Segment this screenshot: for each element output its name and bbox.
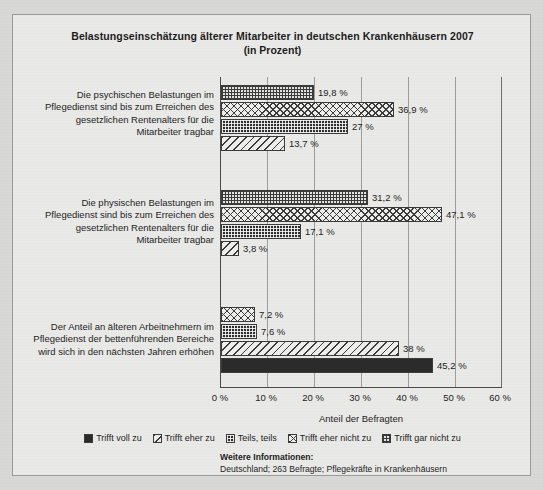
plot-wrapper: Die psychischen Belastungen im Pflegedie… bbox=[13, 67, 532, 397]
value-label-g1-gar-nicht-zu: 31,2 % bbox=[368, 190, 402, 205]
xtick-60: 60 % bbox=[480, 392, 520, 403]
chart-subtitle: (in Prozent) bbox=[13, 43, 532, 57]
legend-item-teils-teils[interactable]: Teils, teils bbox=[226, 433, 277, 443]
value-label-g0-gar-nicht-zu: 19,8 % bbox=[314, 85, 348, 100]
category-label-1-line-0: Die physischen Belastungen im bbox=[19, 197, 214, 209]
plot-area: 19,8 % 36,9 % 27 % 13,7 % 31,2 % 47,1 % … bbox=[220, 77, 502, 388]
value-label-g0-eher-nicht-zu: 36,9 % bbox=[394, 102, 428, 117]
bar-g0-teils-teils[interactable] bbox=[221, 119, 348, 134]
legend-label-3: Trifft eher nicht zu bbox=[300, 433, 372, 443]
bar-g0-eher-nicht-zu[interactable] bbox=[221, 102, 394, 117]
bar-g2-eher-zu[interactable] bbox=[221, 341, 399, 356]
category-label-0-line-1: Pflegedienst sind bis zum Erreichen des bbox=[19, 101, 214, 113]
category-label-0-line-3: Mitarbeiter tragbar bbox=[19, 126, 214, 138]
category-label-1-line-1: Pflegedienst sind bis zum Erreichen des bbox=[19, 209, 214, 221]
value-label-g2-teils-teils: 7,6 % bbox=[257, 324, 285, 339]
gridline-50 bbox=[455, 77, 456, 387]
value-label-g1-teils-teils: 17,1 % bbox=[301, 224, 335, 239]
category-label-2-line-1: Pflegedienst der bettenführenden Bereich… bbox=[19, 333, 214, 345]
value-label-g0-eher-zu: 13,7 % bbox=[285, 136, 319, 151]
legend-label-4: Trifft gar nicht zu bbox=[394, 433, 461, 443]
chart-title-block: Belastungseinschätzung älterer Mitarbeit… bbox=[13, 29, 532, 57]
legend-swatch-diagonal-lines-icon bbox=[153, 434, 162, 443]
bar-g0-gar-nicht-zu[interactable] bbox=[221, 85, 314, 100]
legend-swatch-crosshatch-icon bbox=[288, 434, 297, 443]
chart-title: Belastungseinschätzung älterer Mitarbeit… bbox=[13, 29, 532, 43]
footer-text: Deutschland; 263 Befragte; Pflegekräfte … bbox=[220, 463, 520, 475]
category-label-2: Der Anteil an älteren Arbeitnehmern im P… bbox=[19, 321, 214, 358]
value-label-g2-eher-nicht-zu: 7,2 % bbox=[255, 307, 283, 322]
xtick-20: 20 % bbox=[293, 392, 333, 403]
bar-g1-eher-zu[interactable] bbox=[221, 241, 239, 256]
legend-label-2: Teils, teils bbox=[238, 433, 277, 443]
bar-g1-eher-nicht-zu[interactable] bbox=[221, 207, 442, 222]
xtick-0: 0 % bbox=[200, 392, 240, 403]
scanned-page-background: Belastungseinschätzung älterer Mitarbeit… bbox=[0, 0, 543, 490]
value-label-g2-eher-zu: 38 % bbox=[399, 341, 425, 356]
xtick-30: 30 % bbox=[340, 392, 380, 403]
bar-g2-eher-nicht-zu[interactable] bbox=[221, 307, 255, 322]
value-label-g1-eher-zu: 3,8 % bbox=[239, 241, 267, 256]
gridline-60 bbox=[501, 77, 502, 387]
legend-label-1: Trifft eher zu bbox=[165, 433, 215, 443]
xtick-10: 10 % bbox=[246, 392, 286, 403]
bar-g2-voll-zu[interactable] bbox=[221, 358, 433, 373]
x-axis-title: Anteil der Befragten bbox=[220, 413, 502, 424]
category-label-2-line-0: Der Anteil an älteren Arbeitnehmern im bbox=[19, 321, 214, 333]
category-label-1-line-2: gesetzlichen Rentenalters für die bbox=[19, 222, 214, 234]
xtick-50: 50 % bbox=[434, 392, 474, 403]
bar-g0-eher-zu[interactable] bbox=[221, 136, 285, 151]
legend-item-trifft-eher-nicht-zu[interactable]: Trifft eher nicht zu bbox=[288, 433, 372, 443]
category-label-1: Die physischen Belastungen im Pflegedien… bbox=[19, 197, 214, 247]
value-label-g2-voll-zu: 45,2 % bbox=[433, 358, 467, 373]
value-label-g1-eher-nicht-zu: 47,1 % bbox=[442, 207, 476, 222]
legend-swatch-solid-icon bbox=[84, 434, 93, 443]
category-label-0-line-2: gesetzlichen Rentenalters für die bbox=[19, 114, 214, 126]
legend-item-trifft-gar-nicht-zu[interactable]: Trifft gar nicht zu bbox=[382, 433, 461, 443]
legend-item-trifft-eher-zu[interactable]: Trifft eher zu bbox=[153, 433, 215, 443]
legend-swatch-dense-grid-icon bbox=[226, 434, 235, 443]
category-label-1-line-3: Mitarbeiter tragbar bbox=[19, 234, 214, 246]
footer-heading: Weitere Informationen: bbox=[220, 451, 520, 463]
legend-swatch-dotted-grid-icon bbox=[382, 434, 391, 443]
bar-g2-teils-teils[interactable] bbox=[221, 324, 257, 339]
legend-item-trifft-voll-zu[interactable]: Trifft voll zu bbox=[84, 433, 142, 443]
chart-legend: Trifft voll zu Trifft eher zu Teils, tei… bbox=[13, 433, 532, 443]
footer-note: Weitere Informationen: Deutschland; 263 … bbox=[220, 451, 520, 475]
legend-label-0: Trifft voll zu bbox=[96, 433, 142, 443]
bar-g1-gar-nicht-zu[interactable] bbox=[221, 190, 368, 205]
category-label-0: Die psychischen Belastungen im Pflegedie… bbox=[19, 89, 214, 139]
bar-g1-teils-teils[interactable] bbox=[221, 224, 301, 239]
category-label-0-line-0: Die psychischen Belastungen im bbox=[19, 89, 214, 101]
category-label-2-line-2: wird sich in den nächsten Jahren erhöhen bbox=[19, 346, 214, 358]
chart-card: Belastungseinschätzung älterer Mitarbeit… bbox=[12, 14, 531, 476]
xtick-40: 40 % bbox=[387, 392, 427, 403]
value-label-g0-teils-teils: 27 % bbox=[348, 119, 374, 134]
